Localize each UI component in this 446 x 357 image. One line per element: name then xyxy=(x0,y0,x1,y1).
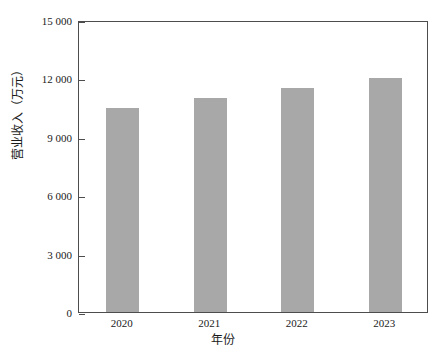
x-tick-label: 2023 xyxy=(344,318,424,329)
y-axis-title: 营业收入（万元） xyxy=(12,32,24,192)
bar-2021 xyxy=(194,98,227,312)
bar-chart-figure: 15 00012 0009 0006 0003 0000 20202021202… xyxy=(0,0,446,357)
bar-2022 xyxy=(281,88,314,312)
x-tick-label: 2020 xyxy=(82,318,162,329)
y-tick-mark xyxy=(79,314,85,315)
y-tick-mark xyxy=(79,22,85,23)
bar-2023 xyxy=(369,78,402,312)
y-tick-mark xyxy=(79,139,85,140)
y-tick-label: 3 000 xyxy=(2,250,72,261)
x-axis-title: 年份 xyxy=(0,334,446,346)
y-tick-label: 0 xyxy=(2,308,72,319)
y-tick-label: 6 000 xyxy=(2,191,72,202)
plot-area xyxy=(78,21,428,313)
y-tick-mark xyxy=(79,80,85,81)
y-tick-label: 15 000 xyxy=(2,16,72,27)
y-tick-mark xyxy=(79,256,85,257)
bars-layer xyxy=(79,22,427,312)
x-tick-label: 2022 xyxy=(257,318,337,329)
x-tick-label: 2021 xyxy=(169,318,249,329)
bar-2020 xyxy=(106,108,139,312)
y-tick-mark xyxy=(79,197,85,198)
